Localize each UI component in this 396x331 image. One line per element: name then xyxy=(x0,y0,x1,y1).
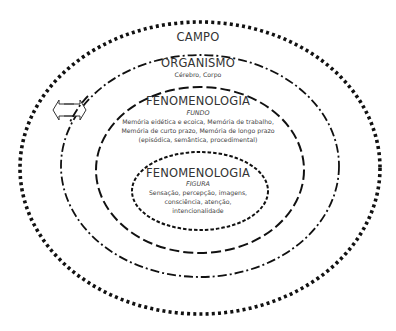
fundo-detail-line-2: Memória de curto prazo, Memória de longo… xyxy=(0,127,396,134)
figura-detail-line-1: Sensação, percepção, imagens, xyxy=(0,189,396,196)
figura-detail-line-3: intencionalidade xyxy=(0,207,396,214)
organismo-subtitle: Cérebro, Corpo xyxy=(0,71,396,78)
figura-title: FENOMENOLOGIA xyxy=(0,166,396,180)
fundo-detail-line-3: (episódica, semântica, procedimental) xyxy=(0,136,396,143)
organismo-title: ORGANISMO xyxy=(0,56,396,70)
fundo-title: FENOMENOLOGIA xyxy=(0,94,396,108)
figura-detail-line-2: consciência, atenção, xyxy=(0,198,396,205)
fundo-detail-line-1: Memória eidética e ecoica, Memória de tr… xyxy=(0,118,396,125)
fundo-subtitle: FUNDO xyxy=(0,109,396,117)
figura-subtitle: FIGURA xyxy=(0,180,396,188)
campo-title: CAMPO xyxy=(0,30,396,44)
